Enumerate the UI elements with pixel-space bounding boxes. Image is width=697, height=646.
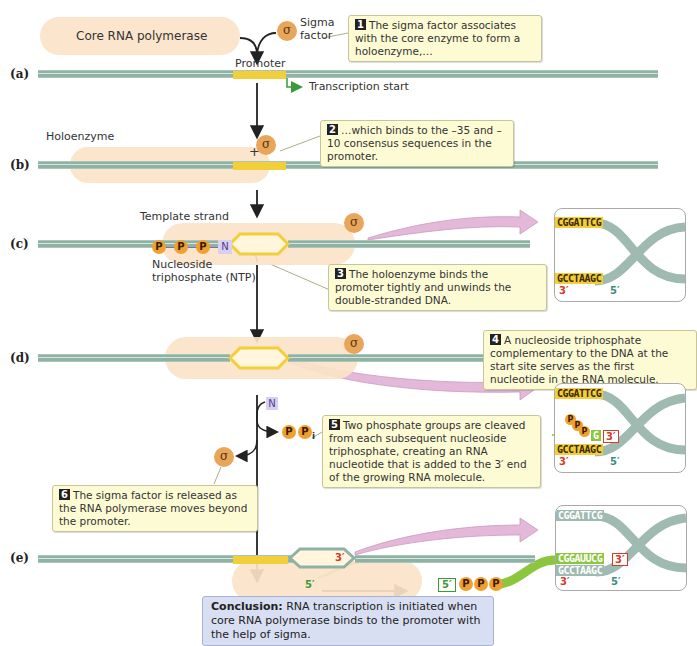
callout-step-1-text: The sigma factor associates with the cor… [355,19,520,57]
five-prime-label: 5′ [610,456,620,467]
core-rna-polymerase-label: Core RNA polymerase [76,29,207,43]
top-strand-sequence: CGGATTCG [555,217,603,228]
dna-c-right [288,240,530,248]
sequence-zoom-d: CGGATTCG P P P G 3′ GCCTAAGC 3′ 5′ [554,383,686,473]
rna-phosphate-icon: P [489,577,503,591]
sigma-factor-label-line2: factor [300,29,334,42]
first-nucleotide: G [591,430,601,441]
promoter-b [233,162,286,170]
callout-step-1: 1The sigma factor associates with the co… [348,15,542,62]
bottom-strand-sequence: GCCTAAGC [555,273,603,284]
open-complex-bubble-d [228,346,290,370]
pyrophosphate-icon: P [282,425,296,439]
rna-five-prime-tag: 5′ [438,578,456,592]
ntp-label: Nucleoside triphosphate (NTP) [152,258,256,284]
ntp-molecule: P P P N [152,240,242,256]
promoter-a [233,71,286,79]
released-nucleotide-icon: N [266,397,278,410]
three-prime-label: 3′ [559,456,569,467]
callout-step-3: 3The holoenzyme binds the promoter tight… [328,264,547,311]
conclusion-label: Conclusion: [211,600,283,613]
callout-step-6-text: The sigma factor is released as the RNA … [59,489,247,527]
sigma-factor-label: Sigma factor [300,16,334,42]
sequence-zoom-e: CGGATTCG CGGAUUCG 3′ GCCTAAGC 3′ 5′ [555,505,687,591]
step-number-5: 5 [329,419,340,430]
released-sigma-icon: σ [214,447,234,467]
rna-five-prime-label: 5′ [305,579,315,590]
callout-step-6: 6The sigma factor is released as the RNA… [52,485,258,532]
callout-step-4-text: A nucleoside triphosphate complementary … [490,334,668,385]
panel-label-e: (e) [10,551,29,565]
phosphate-icon: P [152,240,166,254]
holoenzyme-label: Holoenzyme [46,130,114,143]
callout-step-4: 4A nucleoside triphosphate complementary… [483,330,697,390]
rna-phosphate-icon: P [459,577,473,591]
promoter-label: Promoter [235,57,286,70]
rna-three-prime-tag: 3′ [603,430,619,443]
rna-three-prime-tag: 3′ [612,553,628,566]
conclusion-box: Conclusion: RNA transcription is initiat… [202,596,494,646]
sigma-factor-d-icon: σ [344,334,364,354]
pyrophosphate-subscript: i [312,431,315,441]
panel-label-c: (c) [10,237,29,251]
sigma-factor-label-line1: Sigma [300,16,334,29]
step-number-6: 6 [59,489,70,500]
sequence-zoom-c: CGGATTCG GCCTAAGC 3′ 5′ [554,208,686,302]
nucleoside-icon: N [218,240,232,254]
dna-e-right [355,555,535,563]
five-prime-label: 5′ [610,285,620,296]
template-strand-label: Template strand [140,210,229,223]
three-prime-label: 3′ [559,285,569,296]
sigma-factor-icon: σ [277,21,297,41]
three-prime-label: 3′ [560,576,570,587]
triphosphate-icon: P [579,426,590,437]
pyrophosphate-icon: P [298,425,312,439]
bottom-strand-sequence: GCCTAAGC [555,444,603,455]
sigma-factor-c-icon: σ [344,213,364,233]
panel-label-d: (d) [10,351,30,365]
dna-d-left [38,354,230,362]
callout-step-5: 5Two phosphate groups are cleaved from e… [322,415,541,488]
callout-step-5-text: Two phosphate groups are cleaved from ea… [329,419,527,483]
callout-step-2: 2…which binds to the –35 and –10 consens… [320,120,514,167]
ntp-label-line2: triphosphate (NTP) [152,271,256,284]
phosphate-icon: P [196,240,210,254]
step-number-4: 4 [490,334,501,345]
panel-label-b: (b) [10,158,30,172]
phosphate-icon: P [174,240,188,254]
ntp-label-line1: Nucleoside [152,258,256,271]
promoter-e [233,556,288,564]
transcription-start-label: Transcription start [309,80,409,93]
callout-step-3-text: The holoenzyme binds the promoter tightl… [335,268,511,306]
panel-label-a: (a) [10,67,29,81]
dna-a [38,70,658,78]
rna-three-prime-label: 3′ [335,552,345,563]
five-prime-label: 5′ [611,576,621,587]
bottom-strand-sequence: GCCTAAGC [556,565,604,576]
step-number-2: 2 [327,124,338,135]
top-strand-sequence: CGGATTCG [555,388,603,399]
step-number-3: 3 [335,268,346,279]
step-number-1: 1 [355,19,366,30]
top-strand-sequence: CGGATTCG [556,510,604,521]
transcription-bubble-e [288,546,356,570]
sigma-factor-b-icon: σ [256,135,276,155]
rna-sequence: CGGAUUCG [556,553,604,564]
rna-phosphate-icon: P [474,577,488,591]
callout-step-2-text: …which binds to the –35 and –10 consensu… [327,124,502,162]
